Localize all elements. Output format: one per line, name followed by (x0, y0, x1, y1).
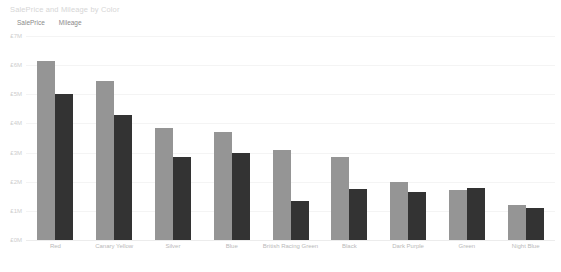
x-axis-tick-label: Night Blue (496, 243, 555, 249)
bar-mileage-blue[interactable] (232, 153, 250, 240)
bar-saleprice-night-blue[interactable] (508, 205, 526, 240)
page-title: SalePrice and Mileage by Color (10, 5, 120, 14)
bar-mileage-night-blue[interactable] (526, 208, 544, 240)
bar-saleprice-canary-yellow[interactable] (96, 81, 114, 240)
y-axis-tick-label: £2M (10, 179, 22, 185)
x-axis-tick-label: Blue (202, 243, 261, 249)
x-axis-tick-label: British Racing Green (261, 243, 320, 249)
circle-swatch-icon (10, 20, 15, 25)
legend-label-mileage: Mileage (59, 19, 82, 26)
bar-saleprice-blue[interactable] (214, 132, 232, 240)
bar-mileage-british-racing-green[interactable] (291, 201, 309, 240)
bar-mileage-silver[interactable] (173, 157, 191, 240)
y-axis-tick-label: £6M (10, 62, 22, 68)
plot-area: £7M£6M£5M£4M£3M£2M£1M£0M (26, 36, 555, 242)
bar-saleprice-british-racing-green[interactable] (273, 150, 291, 240)
x-axis-line (26, 240, 555, 241)
bar-group (85, 36, 144, 240)
bar-group (379, 36, 438, 240)
chart-card: SalePrice and Mileage by Color SalePrice… (0, 0, 561, 272)
bar-saleprice-dark-purple[interactable] (390, 182, 408, 240)
legend-item-saleprice[interactable]: SalePrice (10, 19, 45, 26)
legend-label-saleprice: SalePrice (17, 19, 45, 26)
bar-mileage-dark-purple[interactable] (408, 192, 426, 240)
x-axis-tick-label: Red (26, 243, 85, 249)
y-axis-tick-label: £4M (10, 120, 22, 126)
bar-group (261, 36, 320, 240)
circle-swatch-icon (52, 20, 57, 25)
x-axis-tick-label: Canary Yellow (85, 243, 144, 249)
bar-group (320, 36, 379, 240)
y-axis-tick-label: £7M (10, 33, 22, 39)
x-axis-tick-label: Black (320, 243, 379, 249)
chart-legend: SalePrice Mileage (10, 19, 82, 26)
x-axis-tick-label: Silver (144, 243, 203, 249)
y-axis-tick-label: £1M (10, 208, 22, 214)
bar-saleprice-green[interactable] (449, 190, 467, 240)
bar-saleprice-silver[interactable] (155, 128, 173, 240)
bar-group (496, 36, 555, 240)
legend-item-mileage[interactable]: Mileage (52, 19, 82, 26)
bar-mileage-green[interactable] (467, 188, 485, 240)
bar-group (202, 36, 261, 240)
bar-groups (26, 36, 555, 240)
bar-group (26, 36, 85, 240)
y-axis-tick-label: £0M (10, 237, 22, 243)
y-axis-tick-label: £5M (10, 91, 22, 97)
bar-mileage-red[interactable] (55, 94, 73, 240)
bar-mileage-canary-yellow[interactable] (114, 115, 132, 240)
x-axis-tick-label: Green (437, 243, 496, 249)
x-axis-labels: RedCanary YellowSilverBlueBritish Racing… (26, 243, 555, 249)
bar-group (144, 36, 203, 240)
x-axis-tick-label: Dark Purple (379, 243, 438, 249)
bar-mileage-black[interactable] (349, 189, 367, 240)
bar-saleprice-red[interactable] (37, 61, 55, 240)
bar-group (437, 36, 496, 240)
bar-saleprice-black[interactable] (331, 157, 349, 240)
y-axis-tick-label: £3M (10, 150, 22, 156)
